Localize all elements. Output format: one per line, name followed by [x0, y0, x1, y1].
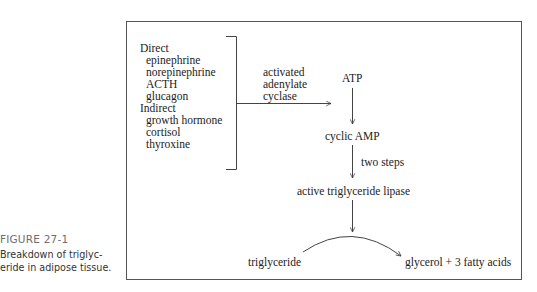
- curved-arrow-icon: [303, 236, 401, 256]
- bracket-icon: [226, 37, 237, 170]
- diagram-lines: [0, 0, 537, 292]
